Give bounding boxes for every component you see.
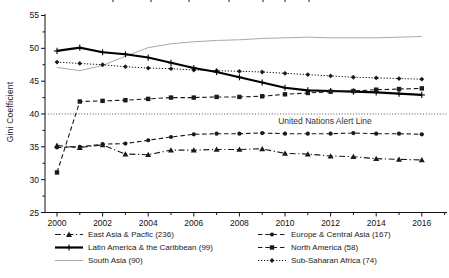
axes xyxy=(45,14,447,213)
legend-item-north-america-: North America (58) xyxy=(257,242,447,253)
svg-text:35: 35 xyxy=(30,142,40,152)
chart-legend: East Asia & Pacfic (236)Europe & Central… xyxy=(54,229,447,266)
svg-text:2016: 2016 xyxy=(412,218,431,228)
legend-label: Latin America & the Caribbean (99) xyxy=(88,242,213,253)
legend-sample-line xyxy=(54,230,84,239)
svg-text:55: 55 xyxy=(30,10,40,20)
legend-item-east-asia-pacfic-: East Asia & Pacfic (236) xyxy=(54,229,257,240)
y-axis-title: Gini Coefficient xyxy=(5,82,15,143)
svg-text:2014: 2014 xyxy=(367,218,386,228)
svg-text:45: 45 xyxy=(30,76,40,86)
svg-text:2004: 2004 xyxy=(139,218,158,228)
legend-sample-line xyxy=(257,256,287,265)
legend-sample-line xyxy=(257,243,287,252)
svg-text:40: 40 xyxy=(30,109,40,119)
legend-label: South Asia (90) xyxy=(88,255,143,266)
series-line xyxy=(57,88,422,172)
svg-text:2000: 2000 xyxy=(48,218,67,228)
svg-text:25: 25 xyxy=(30,208,40,218)
legend-label: North America (58) xyxy=(291,242,358,253)
legend-item-europe-central-asia-: Europe & Central Asia (167) xyxy=(257,229,447,240)
svg-text:2010: 2010 xyxy=(276,218,295,228)
legend-item-south-asia-: South Asia (90) xyxy=(54,255,257,266)
legend-item-sub-saharan-africa-: Sub-Saharan Africa (74) xyxy=(257,255,447,266)
series-north-america- xyxy=(55,86,424,174)
svg-text:30: 30 xyxy=(30,175,40,185)
tick-marks xyxy=(41,15,445,216)
un-alert-line-label: United Nations Alert Line xyxy=(275,116,375,126)
legend-item-latin-america-the-caribbean-: Latin America & the Caribbean (99) xyxy=(54,242,257,253)
svg-text:2012: 2012 xyxy=(321,218,340,228)
svg-text:2002: 2002 xyxy=(93,218,112,228)
series-east-asia-pacfic- xyxy=(54,142,425,162)
legend-label: Sub-Saharan Africa (74) xyxy=(291,255,377,266)
legend-sample-line xyxy=(54,256,84,265)
gini-coefficient-line-chart: 2530354045505520002002200420062008201020… xyxy=(0,0,449,278)
legend-label: Europe & Central Asia (167) xyxy=(291,229,391,240)
svg-text:50: 50 xyxy=(30,43,40,53)
legend-sample-line xyxy=(257,230,287,239)
cropped-caption-fragments xyxy=(112,0,310,2)
svg-text:2006: 2006 xyxy=(184,218,203,228)
legend-sample-line xyxy=(54,243,84,252)
svg-text:2008: 2008 xyxy=(230,218,249,228)
legend-label: East Asia & Pacfic (236) xyxy=(88,229,174,240)
